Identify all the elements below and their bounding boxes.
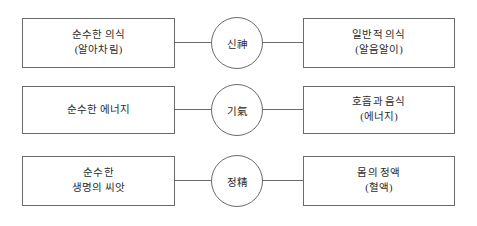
diagram-row: 순수한 에너지 기氣 호흡과 음식 (에너지) <box>0 86 477 134</box>
diagram-canvas: 순수한 의식 (알아차림) 신神 일반적 의식 (알음알이) 순수한 에너지 기… <box>0 0 477 226</box>
node-box-line: (에너지) <box>360 110 398 125</box>
node-box-line: 순수한 <box>83 166 113 181</box>
node-box-right-jeong: 몸의 정액 (혈액) <box>303 156 455 206</box>
node-box-left-sin: 순수한 의식 (알아차림) <box>22 18 175 68</box>
node-circle-sin: 신神 <box>211 17 263 69</box>
node-box-line: (알음알이) <box>355 43 403 58</box>
node-circle-label: 기氣 <box>227 103 247 118</box>
node-box-line: (알아차림) <box>75 43 123 58</box>
node-box-line: 순수한 에너지 <box>67 103 130 118</box>
node-box-line: 호흡과 음식 <box>352 95 405 110</box>
connector-line-left <box>175 180 211 181</box>
node-circle-gi: 기氣 <box>211 84 263 136</box>
node-box-line: 순수한 의식 <box>72 28 125 43</box>
node-box-left-jeong: 순수한 생명의 씨앗 <box>22 156 175 206</box>
node-circle-label: 신神 <box>227 36 247 51</box>
connector-line-right <box>263 109 303 110</box>
connector-line-left <box>175 109 211 110</box>
node-box-line: 생명의 씨앗 <box>72 181 125 196</box>
node-circle-label: 정精 <box>227 174 247 189</box>
node-box-left-gi: 순수한 에너지 <box>22 86 175 134</box>
connector-line-right <box>263 180 303 181</box>
node-box-right-gi: 호흡과 음식 (에너지) <box>303 86 455 134</box>
node-box-line: 일반적 의식 <box>352 28 405 43</box>
diagram-row: 순수한 의식 (알아차림) 신神 일반적 의식 (알음알이) <box>0 18 477 68</box>
connector-line-left <box>175 42 211 43</box>
connector-line-right <box>263 42 303 43</box>
node-circle-jeong: 정精 <box>211 155 263 207</box>
node-box-line: (혈액) <box>365 181 392 196</box>
node-box-line: 몸의 정액 <box>357 166 400 181</box>
diagram-row: 순수한 생명의 씨앗 정精 몸의 정액 (혈액) <box>0 156 477 206</box>
node-box-right-sin: 일반적 의식 (알음알이) <box>303 18 455 68</box>
